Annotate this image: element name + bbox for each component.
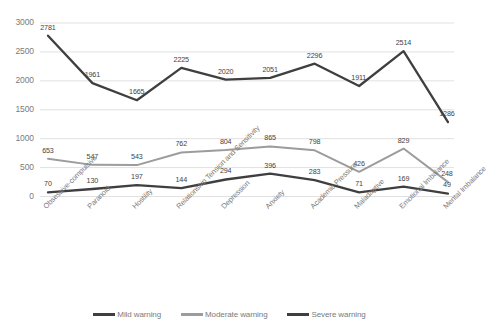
data-label: 2781 bbox=[40, 24, 55, 32]
gridlines bbox=[40, 23, 454, 197]
data-label: 169 bbox=[398, 175, 410, 183]
data-label: 1911 bbox=[351, 74, 366, 82]
legend-label: Moderate warning bbox=[205, 310, 267, 319]
data-label: 130 bbox=[87, 177, 99, 185]
data-label: 798 bbox=[309, 138, 321, 146]
data-label: 829 bbox=[398, 137, 410, 145]
series-line bbox=[48, 36, 448, 122]
data-label: 283 bbox=[309, 168, 321, 176]
data-label: 762 bbox=[175, 140, 187, 148]
data-label: 2020 bbox=[218, 68, 233, 76]
y-tick-label: 2500 bbox=[0, 47, 34, 56]
data-label: 2225 bbox=[174, 56, 189, 64]
legend-item[interactable]: Severe warning bbox=[287, 310, 365, 319]
legend-label: Mild warning bbox=[117, 310, 161, 319]
data-label: 396 bbox=[264, 162, 276, 170]
chart-legend: Mild warningModerate warningSevere warni… bbox=[0, 310, 459, 319]
data-label: 804 bbox=[220, 138, 232, 146]
legend-swatch-icon bbox=[181, 313, 203, 315]
data-label: 70 bbox=[44, 180, 52, 188]
data-label: 197 bbox=[131, 173, 143, 181]
y-tick-label: 3000 bbox=[0, 18, 34, 27]
data-label: 71 bbox=[355, 180, 363, 188]
legend-swatch-icon bbox=[287, 313, 309, 315]
data-label: 1665 bbox=[129, 88, 144, 96]
data-label: 653 bbox=[42, 147, 54, 155]
series-lines bbox=[48, 36, 448, 194]
legend-label: Severe warning bbox=[311, 310, 365, 319]
data-label: 1286 bbox=[439, 110, 454, 118]
data-label: 2296 bbox=[307, 52, 322, 60]
y-tick-label: 1500 bbox=[0, 105, 34, 114]
data-label: 144 bbox=[175, 176, 187, 184]
data-label: 1961 bbox=[85, 71, 100, 79]
y-tick-label: 500 bbox=[0, 163, 34, 172]
data-label: 865 bbox=[264, 134, 276, 142]
legend-item[interactable]: Mild warning bbox=[93, 310, 161, 319]
y-tick-label: 2000 bbox=[0, 76, 34, 85]
legend-swatch-icon bbox=[93, 313, 115, 315]
legend-item[interactable]: Moderate warning bbox=[181, 310, 267, 319]
data-label: 543 bbox=[131, 153, 143, 161]
data-label: 2051 bbox=[262, 66, 277, 74]
y-tick-label: 1000 bbox=[0, 134, 34, 143]
data-label: 2514 bbox=[396, 39, 411, 47]
data-label: 49 bbox=[443, 181, 451, 189]
y-tick-label: 0 bbox=[0, 192, 34, 201]
